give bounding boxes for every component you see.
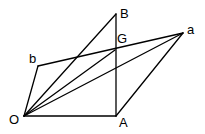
label-G: G bbox=[117, 31, 127, 46]
label-O: O bbox=[9, 112, 19, 127]
geometry-diagram: O A B G a b bbox=[0, 0, 205, 134]
label-B: B bbox=[120, 6, 129, 21]
segment-OG bbox=[24, 50, 115, 116]
segment-Oa bbox=[24, 33, 183, 116]
segment-ba bbox=[38, 33, 183, 66]
label-a: a bbox=[187, 22, 195, 37]
segment-OB bbox=[24, 14, 116, 116]
label-b: b bbox=[29, 51, 36, 66]
label-A: A bbox=[119, 115, 128, 130]
segments bbox=[24, 14, 183, 116]
